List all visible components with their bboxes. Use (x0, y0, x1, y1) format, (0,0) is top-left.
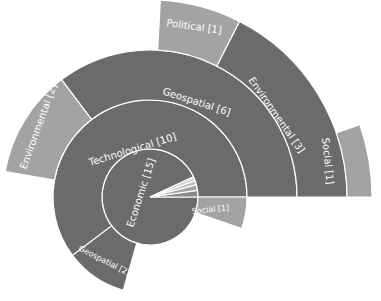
sunburst-segments (5, 0, 372, 290)
sunburst-chart: Economic [15] Technological [10] Geospat… (0, 0, 381, 301)
